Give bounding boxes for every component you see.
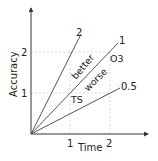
diagram-canvas: 2 1 0.5 better worse TS O3 1 2 1 2 Time … (0, 0, 158, 161)
label-slope-2: 2 (76, 27, 82, 38)
label-slope-1: 1 (119, 35, 125, 46)
label-slope-0.5: 0.5 (121, 81, 137, 92)
y-axis-label: Accuracy (8, 51, 19, 97)
annotation-ts: TS (70, 94, 83, 105)
x-axis-label: Time (77, 142, 102, 153)
x-tick-2: 2 (106, 138, 112, 149)
y-tick-2: 2 (21, 47, 27, 58)
line-slope-1 (31, 43, 118, 134)
annotation-o3: O3 (110, 53, 124, 64)
line-slope-2 (31, 34, 81, 134)
x-tick-1: 1 (67, 138, 73, 149)
y-tick-1: 1 (21, 88, 27, 99)
